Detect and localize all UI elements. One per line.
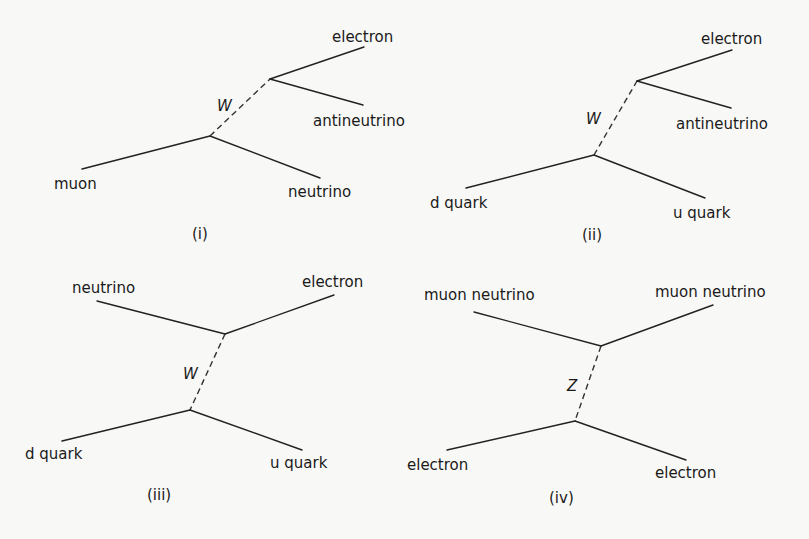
caption: (ii) [582,226,602,244]
label-muon-neutrino-out: muon neutrino [655,283,766,301]
label-antineutrino: antineutrino [676,115,768,133]
label-u-quark: u quark [270,454,328,472]
feynman-diagrams-figure: electron antineutrino W muon neutrino (i… [0,0,809,539]
electron-line [270,47,364,79]
label-muon-neutrino-in: muon neutrino [424,286,535,304]
label-electron: electron [701,30,762,48]
muon-neutrino-in-line [474,312,601,346]
label-muon: muon [54,175,97,193]
label-boson: W [586,110,602,128]
diagram-iii: neutrino electron W d quark u quark (iii… [25,273,363,504]
antineutrino-line [270,79,363,105]
muon-neutrino-out-line [601,305,713,346]
label-d-quark: d quark [25,445,83,463]
label-u-quark: u quark [673,204,731,222]
muon-line [82,136,210,169]
u-quark-line [594,155,705,198]
neutrino-line [97,301,225,334]
electron-line [225,295,334,334]
electron-line [637,50,732,81]
label-electron: electron [302,273,363,291]
d-quark-line [466,155,594,188]
neutrino-line [210,136,320,178]
caption: (iv) [549,489,574,507]
diagram-canvas: electron antineutrino W muon neutrino (i… [0,0,809,539]
label-antineutrino: antineutrino [313,112,405,130]
caption: (iii) [147,486,171,504]
z-boson-line [575,346,601,421]
u-quark-line [190,410,302,450]
label-electron: electron [332,28,393,46]
electron-in-line [447,421,575,450]
d-quark-line [62,410,190,441]
label-boson: W [183,365,199,383]
label-neutrino: neutrino [288,183,351,201]
diagram-iv: muon neutrino muon neutrino Z electron e… [407,283,766,507]
label-boson: W [217,97,233,115]
label-d-quark: d quark [430,194,488,212]
label-electron-out: electron [655,464,716,482]
caption: (i) [192,225,208,243]
electron-out-line [575,421,686,460]
antineutrino-line [637,81,731,108]
diagram-i: electron antineutrino W muon neutrino (i… [54,28,405,243]
label-neutrino: neutrino [72,279,135,297]
label-boson: Z [566,377,578,395]
label-electron-in: electron [407,456,468,474]
diagram-ii: electron antineutrino W d quark u quark … [430,30,768,244]
